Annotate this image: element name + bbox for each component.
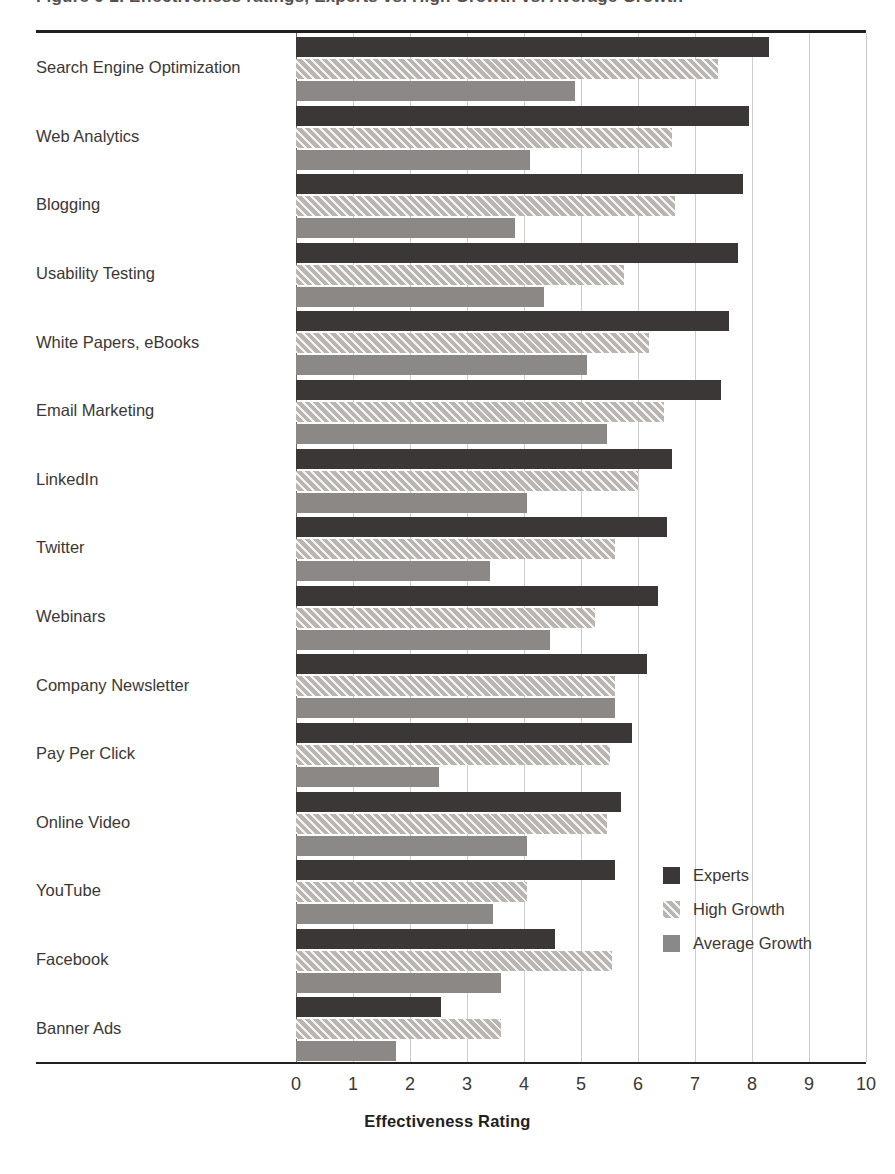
category-label: YouTube [36, 881, 290, 900]
bar-row: Usability Testing [36, 239, 866, 308]
bar-average-growth [296, 424, 607, 444]
legend-label: Average Growth [693, 934, 812, 953]
bar-group [296, 102, 866, 171]
bar-average-growth [296, 287, 544, 307]
bar-high-growth [296, 196, 675, 216]
bar-row: Blogging [36, 170, 866, 239]
bar-average-growth [296, 904, 493, 924]
bar-group [296, 445, 866, 514]
x-tick-label: 2 [405, 1074, 415, 1095]
bar-row: Web Analytics [36, 102, 866, 171]
bar-experts [296, 380, 721, 400]
bar-experts [296, 174, 743, 194]
bar-high-growth [296, 1019, 501, 1039]
bar-row: Search Engine Optimization [36, 33, 866, 102]
bar-group [296, 650, 866, 719]
category-label: Banner Ads [36, 1018, 290, 1037]
category-label: Pay Per Click [36, 744, 290, 763]
bar-row: Pay Per Click [36, 719, 866, 788]
bar-high-growth [296, 676, 615, 696]
bar-high-growth [296, 59, 718, 79]
category-label: Webinars [36, 607, 290, 626]
clipped-figure-title: Figure 6-2. Effectiveness ratings, Exper… [0, 0, 895, 16]
bar-experts [296, 106, 749, 126]
category-label: Search Engine Optimization [36, 58, 290, 77]
bar-high-growth [296, 882, 527, 902]
bar-experts [296, 929, 555, 949]
x-tick-label: 8 [747, 1074, 757, 1095]
bar-high-growth [296, 471, 638, 491]
category-label: Web Analytics [36, 126, 290, 145]
bar-group [296, 993, 866, 1062]
bar-group [296, 719, 866, 788]
x-tick-label: 4 [519, 1074, 529, 1095]
legend-entry: Average Growth [663, 926, 873, 960]
x-tick-label: 5 [576, 1074, 586, 1095]
category-label: Blogging [36, 195, 290, 214]
x-tick-label: 6 [633, 1074, 643, 1095]
bar-average-growth [296, 493, 527, 513]
category-label: Usability Testing [36, 264, 290, 283]
bar-high-growth [296, 539, 615, 559]
bar-experts [296, 654, 647, 674]
chart-page: Figure 6-2. Effectiveness ratings, Exper… [0, 0, 895, 1174]
bar-group [296, 239, 866, 308]
hatched-swatch [663, 901, 680, 918]
x-tick-label: 0 [291, 1074, 301, 1095]
legend-label: Experts [693, 866, 749, 885]
bar-experts [296, 860, 615, 880]
bar-high-growth [296, 951, 612, 971]
gray-solid-swatch [663, 935, 680, 952]
bar-high-growth [296, 745, 610, 765]
bar-row: LinkedIn [36, 445, 866, 514]
bar-experts [296, 586, 658, 606]
bar-high-growth [296, 128, 672, 148]
bar-row: Webinars [36, 582, 866, 651]
bar-high-growth [296, 333, 649, 353]
bar-average-growth [296, 150, 530, 170]
bar-experts [296, 723, 632, 743]
bar-row: Email Marketing [36, 376, 866, 445]
bar-experts [296, 792, 621, 812]
legend-entry: High Growth [663, 892, 873, 926]
bar-high-growth [296, 814, 607, 834]
bar-group [296, 513, 866, 582]
bar-average-growth [296, 698, 615, 718]
bar-high-growth [296, 608, 595, 628]
category-label: Online Video [36, 812, 290, 831]
category-label: Twitter [36, 538, 290, 557]
chart-legend: ExpertsHigh GrowthAverage Growth [663, 858, 873, 960]
bar-average-growth [296, 355, 587, 375]
bar-group [296, 307, 866, 376]
bottom-rule [36, 1062, 866, 1064]
bar-average-growth [296, 767, 439, 787]
x-axis-ticks: 012345678910 [36, 1074, 866, 1104]
x-tick-label: 3 [462, 1074, 472, 1095]
x-tick-label: 1 [348, 1074, 358, 1095]
bar-row: Banner Ads [36, 993, 866, 1062]
bar-average-growth [296, 630, 550, 650]
bar-row: Online Video [36, 788, 866, 857]
bar-experts [296, 311, 729, 331]
bar-experts [296, 449, 672, 469]
bar-group [296, 788, 866, 857]
bar-group [296, 33, 866, 102]
bar-row: Twitter [36, 513, 866, 582]
dark-solid-swatch [663, 867, 680, 884]
bar-average-growth [296, 218, 515, 238]
x-tick-label: 10 [856, 1074, 876, 1095]
x-axis-title: Effectiveness Rating [0, 1112, 895, 1131]
x-tick-label: 9 [804, 1074, 814, 1095]
category-label: Facebook [36, 950, 290, 969]
figure-title-text: Figure 6-2. Effectiveness ratings, Exper… [36, 0, 683, 7]
bar-row: Company Newsletter [36, 650, 866, 719]
category-label: White Papers, eBooks [36, 332, 290, 351]
bar-high-growth [296, 265, 624, 285]
bar-average-growth [296, 836, 527, 856]
bar-average-growth [296, 973, 501, 993]
category-label: Email Marketing [36, 401, 290, 420]
x-tick-label: 7 [690, 1074, 700, 1095]
category-label: LinkedIn [36, 469, 290, 488]
bar-experts [296, 517, 667, 537]
bar-average-growth [296, 561, 490, 581]
